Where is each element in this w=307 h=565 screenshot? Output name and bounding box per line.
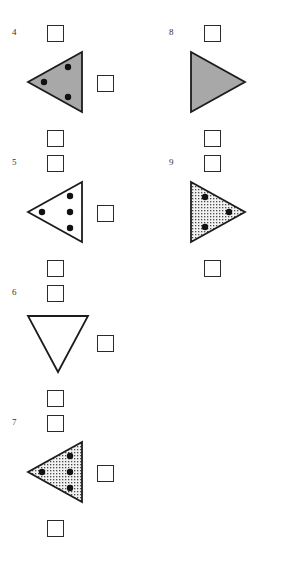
worksheet-item-7: 7 [0, 412, 150, 552]
shape-dot-0 [39, 209, 45, 215]
item-number-label: 4 [12, 28, 17, 37]
item-number-label: 7 [12, 418, 17, 427]
answer-box-top[interactable] [204, 155, 221, 172]
worksheet-item-6: 6 [0, 282, 150, 422]
shape-container [183, 180, 247, 244]
shape-dot-2 [67, 209, 73, 215]
answer-box-top[interactable] [47, 285, 64, 302]
triangle-right-stipple [191, 182, 245, 242]
answer-box-bottom[interactable] [47, 260, 64, 277]
item-number-label: 9 [169, 158, 174, 167]
item-number-label: 5 [12, 158, 17, 167]
answer-box-top[interactable] [47, 155, 64, 172]
answer-box-bottom[interactable] [47, 390, 64, 407]
answer-box-bottom[interactable] [47, 130, 64, 147]
triangle-right-gray [191, 52, 245, 112]
answer-box-bottom[interactable] [204, 130, 221, 147]
answer-box-top[interactable] [47, 415, 64, 432]
shape-dot-0 [226, 209, 232, 215]
item-number-label: 6 [12, 288, 17, 297]
answer-box-bottom[interactable] [204, 260, 221, 277]
answer-box-right[interactable] [97, 335, 114, 352]
shape-container [26, 50, 90, 114]
shape-dot-3 [67, 225, 73, 231]
answer-box-right[interactable] [97, 205, 114, 222]
shape-dot-2 [65, 94, 71, 100]
shape-dot-2 [202, 224, 208, 230]
triangle-down-white [28, 316, 88, 372]
worksheet-item-4: 4 [0, 22, 150, 162]
answer-box-right[interactable] [97, 75, 114, 92]
shape-dot-1 [67, 193, 73, 199]
shape-dot-1 [67, 453, 73, 459]
worksheet-item-9: 9 [157, 152, 307, 292]
worksheet-item-8: 8 [157, 22, 307, 162]
shape-dot-2 [67, 469, 73, 475]
shape-dot-1 [202, 194, 208, 200]
shape-container [26, 180, 90, 244]
answer-box-top[interactable] [47, 25, 64, 42]
shape-dot-1 [65, 64, 71, 70]
worksheet-sheet: 456789 [0, 0, 307, 565]
answer-box-right[interactable] [97, 465, 114, 482]
triangle-left-white [28, 182, 82, 242]
shape-container [26, 440, 90, 504]
item-number-label: 8 [169, 28, 174, 37]
worksheet-item-5: 5 [0, 152, 150, 292]
shape-container [183, 50, 247, 114]
triangle-left-gray [28, 52, 82, 112]
shape-dot-3 [67, 485, 73, 491]
answer-box-top[interactable] [204, 25, 221, 42]
shape-dot-0 [41, 79, 47, 85]
answer-box-bottom[interactable] [47, 520, 64, 537]
shape-dot-0 [39, 469, 45, 475]
shape-container [26, 310, 90, 374]
triangle-left-stipple [28, 442, 82, 502]
